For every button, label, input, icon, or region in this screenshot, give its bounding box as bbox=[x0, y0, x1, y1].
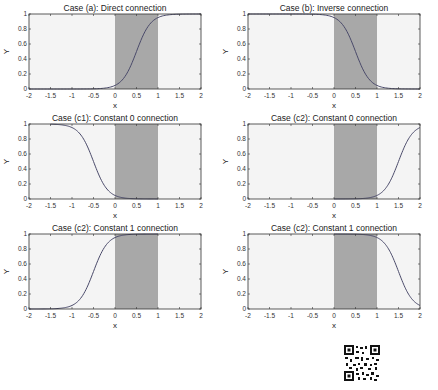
y-tick-label: 0.4 bbox=[18, 275, 27, 282]
y-tick-label: 0.6 bbox=[237, 260, 246, 267]
chart-title: Case (c2): Constant 0 connection bbox=[271, 113, 397, 123]
y-tick-label: 0 bbox=[23, 85, 27, 92]
x-tick-label: -2 bbox=[26, 92, 32, 99]
shaded-region bbox=[115, 124, 158, 199]
chart-title: Case (b): Inverse connection bbox=[280, 3, 389, 13]
x-axis-label: x bbox=[332, 321, 336, 330]
x-axis-label: x bbox=[113, 101, 117, 110]
y-tick-label: 1 bbox=[23, 120, 27, 127]
y-tick-label: 0 bbox=[242, 305, 246, 312]
y-tick-label: 1 bbox=[242, 10, 246, 17]
y-tick-label: 0.8 bbox=[18, 25, 27, 32]
x-axis-label: x bbox=[113, 211, 117, 220]
x-tick-label: -1.5 bbox=[45, 312, 57, 319]
y-tick-label: 0.4 bbox=[237, 275, 246, 282]
y-tick-label: 0.4 bbox=[237, 55, 246, 62]
x-tick-label: -0.5 bbox=[88, 202, 100, 209]
y-tick-label: 0 bbox=[23, 195, 27, 202]
shaded-region bbox=[334, 234, 377, 309]
x-tick-label: -2 bbox=[26, 312, 32, 319]
x-tick-label: 2 bbox=[199, 92, 203, 99]
chart-panel: -2-1.5-1-0.500.511.5200.20.40.60.81Case … bbox=[0, 110, 219, 220]
y-tick-label: 0.8 bbox=[18, 135, 27, 142]
y-axis-label: Y bbox=[221, 268, 230, 274]
x-tick-label: 0.5 bbox=[132, 92, 141, 99]
x-tick-label: -0.5 bbox=[307, 92, 319, 99]
chart-panel: -2-1.5-1-0.500.511.5200.20.40.60.81Case … bbox=[0, 220, 219, 330]
y-tick-label: 0.4 bbox=[237, 165, 246, 172]
y-tick-label: 0.6 bbox=[237, 150, 246, 157]
x-tick-label: 1.5 bbox=[394, 202, 403, 209]
y-tick-label: 0.4 bbox=[18, 165, 27, 172]
y-tick-label: 1 bbox=[23, 10, 27, 17]
qr-code bbox=[344, 345, 380, 381]
x-tick-label: 0.5 bbox=[132, 202, 141, 209]
x-tick-label: 0 bbox=[332, 92, 336, 99]
x-tick-label: -1 bbox=[288, 202, 294, 209]
y-tick-label: 0.2 bbox=[18, 70, 27, 77]
x-tick-label: -2 bbox=[245, 202, 251, 209]
x-axis-label: x bbox=[332, 101, 336, 110]
x-tick-label: 1.5 bbox=[175, 92, 184, 99]
x-tick-label: -1.5 bbox=[45, 92, 57, 99]
x-tick-label: 1.5 bbox=[175, 312, 184, 319]
x-tick-label: 0.5 bbox=[351, 202, 360, 209]
x-tick-label: 1 bbox=[156, 202, 160, 209]
x-tick-label: 1 bbox=[375, 202, 379, 209]
x-tick-label: -1.5 bbox=[264, 92, 276, 99]
chart-panel: -2-1.5-1-0.500.511.5200.20.40.60.81Case … bbox=[219, 0, 438, 110]
chart-panel: -2-1.5-1-0.500.511.5200.20.40.60.81Case … bbox=[0, 0, 219, 110]
x-tick-label: 0.5 bbox=[351, 92, 360, 99]
y-tick-label: 1 bbox=[242, 120, 246, 127]
x-tick-label: 0 bbox=[332, 202, 336, 209]
x-tick-label: -1 bbox=[69, 202, 75, 209]
x-tick-label: -0.5 bbox=[307, 202, 319, 209]
x-tick-label: 0.5 bbox=[132, 312, 141, 319]
shaded-region bbox=[334, 124, 377, 199]
y-tick-label: 0.2 bbox=[18, 180, 27, 187]
x-tick-label: 1 bbox=[156, 92, 160, 99]
x-tick-label: -2 bbox=[26, 202, 32, 209]
y-axis-label: Y bbox=[221, 158, 230, 164]
chart-title: Case (a): Direct connection bbox=[64, 3, 167, 13]
x-tick-label: 1 bbox=[375, 312, 379, 319]
y-tick-label: 0.2 bbox=[18, 290, 27, 297]
y-tick-label: 0.8 bbox=[237, 245, 246, 252]
x-tick-label: -0.5 bbox=[88, 312, 100, 319]
x-tick-label: 0 bbox=[332, 312, 336, 319]
x-tick-label: -1.5 bbox=[45, 202, 57, 209]
x-tick-label: 2 bbox=[199, 312, 203, 319]
y-axis-label: Y bbox=[2, 268, 11, 274]
y-tick-label: 0.6 bbox=[18, 150, 27, 157]
x-tick-label: -0.5 bbox=[88, 92, 100, 99]
x-tick-label: 1.5 bbox=[175, 202, 184, 209]
x-tick-label: -1 bbox=[69, 312, 75, 319]
chart-title: Case (c2): Constant 1 connection bbox=[271, 223, 397, 233]
y-axis-label: Y bbox=[2, 158, 11, 164]
chart-title: Case (c2): Constant 1 connection bbox=[52, 223, 178, 233]
x-tick-label: -0.5 bbox=[307, 312, 319, 319]
y-tick-label: 0 bbox=[242, 85, 246, 92]
y-tick-label: 0.6 bbox=[18, 40, 27, 47]
x-tick-label: -1.5 bbox=[264, 202, 276, 209]
chart-panel: -2-1.5-1-0.500.511.5200.20.40.60.81Case … bbox=[219, 220, 438, 330]
y-tick-label: 0.2 bbox=[237, 70, 246, 77]
y-tick-label: 0.2 bbox=[237, 290, 246, 297]
y-tick-label: 0.8 bbox=[237, 135, 246, 142]
y-tick-label: 0.6 bbox=[237, 40, 246, 47]
x-tick-label: 2 bbox=[418, 92, 422, 99]
y-tick-label: 0.8 bbox=[237, 25, 246, 32]
x-tick-label: 0 bbox=[113, 202, 117, 209]
y-tick-label: 1 bbox=[242, 230, 246, 237]
y-axis-label: Y bbox=[221, 48, 230, 54]
x-tick-label: 2 bbox=[199, 202, 203, 209]
chart-panel: -2-1.5-1-0.500.511.5200.20.40.60.81Case … bbox=[219, 110, 438, 220]
x-tick-label: -1 bbox=[288, 312, 294, 319]
x-tick-label: -2 bbox=[245, 92, 251, 99]
x-tick-label: 1.5 bbox=[394, 312, 403, 319]
y-tick-label: 0 bbox=[242, 195, 246, 202]
x-tick-label: 1 bbox=[156, 312, 160, 319]
x-tick-label: -1 bbox=[288, 92, 294, 99]
chart-title: Case (c1): Constant 0 connection bbox=[52, 113, 178, 123]
x-tick-label: 1 bbox=[375, 92, 379, 99]
